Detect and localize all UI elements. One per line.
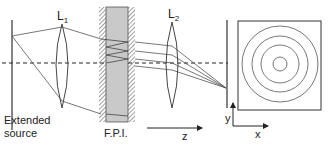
- fringe-pattern: [238, 21, 321, 110]
- transmitted-rays: [135, 42, 226, 88]
- label-lens1: L1: [57, 9, 69, 25]
- label-y: y: [225, 112, 231, 124]
- label-source-line2: source: [4, 127, 37, 139]
- label-lens2: L2: [168, 7, 180, 23]
- label-z: z: [182, 130, 188, 142]
- fpi-diagram: L1 L2 Extended source F.P.I. z y x: [0, 0, 329, 147]
- label-source-line1: Extended: [4, 114, 50, 126]
- label-fpi: F.P.I.: [104, 127, 128, 139]
- label-x: x: [255, 128, 261, 140]
- fabry-perot-interferometer: [99, 7, 135, 122]
- rays-source-to-lens1: [12, 27, 62, 101]
